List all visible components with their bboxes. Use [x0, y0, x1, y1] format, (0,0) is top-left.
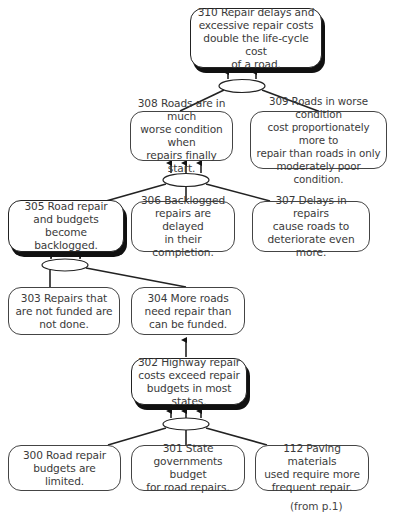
node-308: 308 Roads are in much worse condition wh… [130, 111, 233, 161]
node-302: 302 Highway repair costs exceed repair b… [131, 358, 247, 405]
node-305: 305 Road repair and budgets become backl… [8, 200, 124, 252]
node-306: 306 Backlogged repairs are delayed in th… [131, 201, 235, 252]
node-301: 301 State governments budget for road re… [131, 445, 245, 491]
node-112: 112 Paving materials used require more f… [255, 445, 369, 491]
node-304: 304 More roads need repair than can be f… [131, 287, 245, 335]
node-303: 303 Repairs that are not funded are not … [8, 287, 120, 335]
node-300: 300 Road repair budgets are limited. [8, 445, 121, 491]
node-307: 307 Delays in repairs cause roads to det… [252, 201, 370, 252]
node-310: 310 Repair delays and excessive repair c… [190, 8, 322, 68]
node-309: 309 Roads in worse condition cost propor… [250, 111, 387, 169]
footnote: (from p.1) [290, 500, 343, 512]
